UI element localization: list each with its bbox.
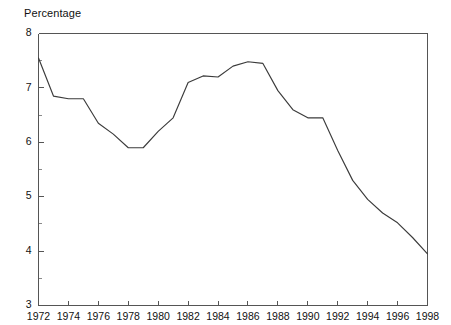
y-axis-ticks <box>39 34 44 306</box>
y-tick-label: 6 <box>26 135 32 147</box>
x-tick-label: 1992 <box>326 310 350 322</box>
x-tick-label: 1998 <box>416 310 440 322</box>
x-tick-label: 1980 <box>147 310 171 322</box>
chart-figure: Percentage 345678 1972197419761978198019… <box>0 0 451 325</box>
y-tick-label: 5 <box>26 189 32 201</box>
x-tick-label: 1972 <box>27 310 51 322</box>
x-tick-label: 1990 <box>296 310 320 322</box>
x-tick-label: 1994 <box>356 310 380 322</box>
y-tick-label: 8 <box>26 26 32 38</box>
y-tick-label: 7 <box>26 81 32 93</box>
y-axis-tick-labels: 345678 <box>26 26 32 310</box>
x-tick-label: 1974 <box>57 310 81 322</box>
x-axis-ticks <box>39 301 428 306</box>
chart-axes <box>39 34 428 306</box>
x-tick-label: 1986 <box>236 310 260 322</box>
x-tick-label: 1996 <box>386 310 410 322</box>
x-axis-tick-labels: 1972197419761978198019821984198619881990… <box>27 310 440 322</box>
x-tick-label: 1976 <box>87 310 111 322</box>
line-chart-plot: 345678 197219741976197819801982198419861… <box>0 0 451 325</box>
x-tick-label: 1978 <box>117 310 141 322</box>
x-tick-label: 1988 <box>266 310 290 322</box>
x-tick-label: 1982 <box>176 310 200 322</box>
data-series-line <box>39 58 428 254</box>
y-tick-label: 4 <box>26 244 32 256</box>
x-tick-label: 1984 <box>206 310 230 322</box>
y-tick-label: 3 <box>26 298 32 310</box>
